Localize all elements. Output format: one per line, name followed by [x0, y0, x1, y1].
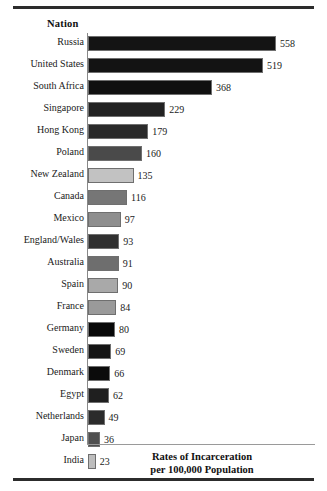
- bar-row: New Zealand135: [0, 165, 327, 187]
- bar-category-label: New Zealand: [30, 168, 84, 180]
- bar: [88, 212, 121, 227]
- bar-value-label: 160: [146, 148, 161, 160]
- bar-category-label: Poland: [56, 146, 84, 158]
- bar-value-label: 368: [216, 82, 231, 94]
- bar-value-label: 116: [131, 192, 146, 204]
- bar-category-label: Russia: [57, 36, 84, 48]
- bar-value-label: 84: [120, 302, 130, 314]
- bar-and-value: 368: [88, 80, 231, 95]
- bar-and-value: 69: [88, 344, 125, 359]
- bar-value-label: 66: [114, 368, 124, 380]
- bar-and-value: 90: [88, 278, 132, 293]
- bar-category-label: Mexico: [53, 212, 84, 224]
- bar-row: Singapore229: [0, 99, 327, 121]
- bar-row: England/Wales93: [0, 231, 327, 253]
- bar-and-value: 80: [88, 322, 129, 337]
- bar: [88, 36, 276, 51]
- bar-row: South Africa368: [0, 77, 327, 99]
- bar: [88, 124, 148, 139]
- bottom-rule-divider: [13, 478, 314, 481]
- bar: [88, 256, 119, 271]
- caption-line-2: per 100,000 Population: [88, 463, 316, 476]
- bar: [88, 80, 212, 95]
- bar: [88, 344, 111, 359]
- bar: [88, 234, 119, 249]
- bar-row: Sweden69: [0, 341, 327, 363]
- bar-category-label: Netherlands: [36, 410, 84, 422]
- incarceration-bar-chart-figure: Nation Russia558United States519South Af…: [0, 0, 327, 491]
- column-header-nation: Nation: [47, 18, 79, 29]
- bar-and-value: 91: [88, 256, 133, 271]
- bar-and-value: 93: [88, 234, 133, 249]
- bar-row: Spain90: [0, 275, 327, 297]
- bar-and-value: 519: [88, 58, 282, 73]
- bar-value-label: 49: [109, 412, 119, 424]
- bar-category-label: Egypt: [60, 388, 84, 400]
- chart-caption: Rates of Incarceration per 100,000 Popul…: [88, 450, 316, 476]
- bar-row: Denmark66: [0, 363, 327, 385]
- bar-category-label: South Africa: [33, 80, 84, 92]
- bar-and-value: 84: [88, 300, 130, 315]
- bar: [88, 168, 134, 183]
- bar-and-value: 229: [88, 102, 184, 117]
- bar-category-label: Canada: [54, 190, 84, 202]
- bar: [88, 322, 115, 337]
- bar-and-value: 116: [88, 190, 146, 205]
- bar-row: France84: [0, 297, 327, 319]
- bar-row: Japan36: [0, 429, 327, 451]
- bar-row: Poland160: [0, 143, 327, 165]
- bar-and-value: 62: [88, 388, 123, 403]
- bar-and-value: 558: [88, 36, 295, 51]
- bar: [88, 146, 142, 161]
- bar-row: Australia91: [0, 253, 327, 275]
- bar: [88, 190, 127, 205]
- bar-value-label: 135: [138, 170, 153, 182]
- bar-category-label: Hong Kong: [37, 124, 84, 136]
- bar-category-label: United States: [30, 58, 84, 70]
- bar-rows-container: Russia558United States519South Africa368…: [0, 33, 327, 473]
- bar-value-label: 179: [152, 126, 167, 138]
- chart-baseline: [87, 444, 315, 445]
- caption-line-1: Rates of Incarceration: [88, 450, 316, 463]
- bar-row: Canada116: [0, 187, 327, 209]
- bar-category-label: Japan: [61, 432, 84, 444]
- bar-category-label: Australia: [47, 256, 84, 268]
- top-rule-divider: [13, 6, 314, 9]
- bar: [88, 58, 263, 73]
- bar-value-label: 519: [267, 60, 282, 72]
- bar-category-label: Spain: [61, 278, 84, 290]
- bar-row: Germany80: [0, 319, 327, 341]
- bar-category-label: India: [63, 454, 84, 466]
- bar-value-label: 91: [123, 258, 133, 270]
- bar: [88, 410, 105, 425]
- bar: [88, 388, 109, 403]
- bar-value-label: 93: [123, 236, 133, 248]
- bar-category-label: Germany: [47, 322, 84, 334]
- bar: [88, 278, 118, 293]
- bar-value-label: 97: [125, 214, 135, 226]
- bar-category-label: Sweden: [52, 344, 84, 356]
- bar-and-value: 49: [88, 410, 119, 425]
- bar: [88, 300, 116, 315]
- bar: [88, 366, 110, 381]
- bar-row: Mexico97: [0, 209, 327, 231]
- bar-row: Hong Kong179: [0, 121, 327, 143]
- bar-row: United States519: [0, 55, 327, 77]
- bar-value-label: 90: [122, 280, 132, 292]
- bar-value-label: 80: [119, 324, 129, 336]
- bar-category-label: Denmark: [47, 366, 84, 378]
- bar-row: Egypt62: [0, 385, 327, 407]
- bar-and-value: 66: [88, 366, 124, 381]
- bar-and-value: 135: [88, 168, 153, 183]
- bar-category-label: Singapore: [43, 102, 84, 114]
- bar-value-label: 558: [280, 38, 295, 50]
- bar-value-label: 229: [169, 104, 184, 116]
- bar-value-label: 62: [113, 390, 123, 402]
- bar-category-label: France: [57, 300, 84, 312]
- bar-and-value: 160: [88, 146, 161, 161]
- bar-row: Netherlands49: [0, 407, 327, 429]
- bar: [88, 102, 165, 117]
- bar-value-label: 69: [115, 346, 125, 358]
- bar-and-value: 97: [88, 212, 135, 227]
- bar-row: Russia558: [0, 33, 327, 55]
